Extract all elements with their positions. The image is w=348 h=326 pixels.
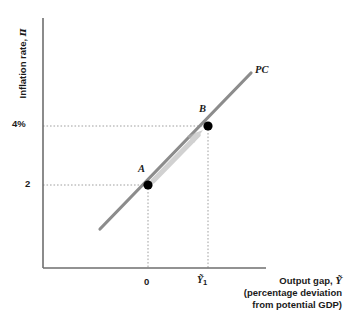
phillips-curve-figure: Inflation rate, π 4% 2 0 Ỹ1 Output gap, …	[0, 0, 348, 326]
point-a-label: A	[138, 163, 145, 175]
y-tick-label-4-percent: 4%	[12, 119, 26, 130]
y-tick-label-2: 2	[25, 179, 30, 190]
x-axis-title-line3: from potential GDP)	[252, 299, 342, 310]
y-axis-title: Inflation rate, π	[16, 8, 29, 118]
pi-symbol: π	[16, 28, 28, 36]
x-axis-title: Output gap, Ỹ(percentage deviationfrom p…	[180, 274, 342, 312]
y-tilde-symbol: Ỹ	[335, 274, 342, 286]
pc-curve-label: PC	[255, 64, 268, 76]
point-b-label: B	[199, 103, 206, 115]
point-b-marker	[203, 121, 212, 130]
movement-arrow	[153, 130, 203, 181]
x-axis-title-line1: Output gap,	[279, 275, 335, 286]
phillips-curve-line	[100, 73, 251, 229]
y-axis-title-text: Inflation rate,	[17, 36, 28, 98]
x-tick-label-zero: 0	[144, 277, 149, 288]
x-axis-title-line2: (percentage deviation	[244, 287, 342, 298]
point-a-marker	[143, 180, 152, 189]
